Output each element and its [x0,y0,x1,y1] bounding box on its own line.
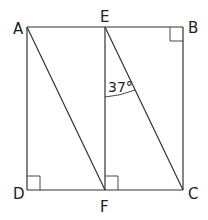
label-C: C [188,185,198,203]
label-D: D [13,185,25,203]
label-B: B [188,19,198,37]
label-E: E [100,8,109,26]
label-F: F [100,198,109,216]
right-angle-mark-D [27,176,40,190]
angle-label: 37° [108,79,133,95]
label-A: A [13,20,24,38]
segment-AF [27,27,105,190]
geometry-diagram: 37° A E B D F C [0,0,208,220]
right-angle-mark-B [170,27,183,41]
segment-EC [105,27,183,190]
right-angle-mark-F [105,176,118,190]
